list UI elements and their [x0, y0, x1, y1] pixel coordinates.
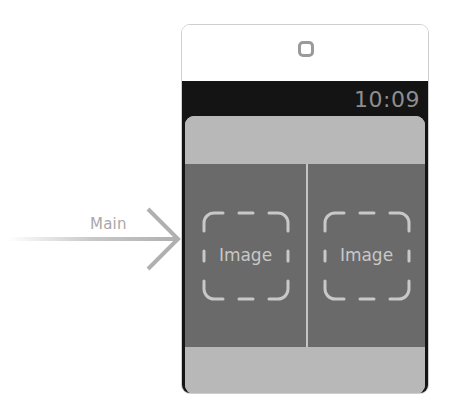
entry-point-label: Main [90, 215, 127, 233]
image-placeholder: Image [322, 211, 412, 301]
status-bar: 10:09 [182, 81, 428, 115]
image-row-group[interactable]: Image [185, 164, 425, 347]
watch-screen: 10:09 [182, 81, 428, 394]
image-placeholder-label: Image [322, 245, 412, 265]
group-bottom-area [185, 347, 425, 394]
image-placeholder-label: Image [201, 245, 291, 265]
storyboard-entry-point-arrow[interactable] [0, 195, 185, 275]
group-top-area [185, 116, 425, 164]
entry-arrow-icon [0, 195, 185, 275]
group-container[interactable]: Image [185, 116, 425, 394]
interface-controller-icon[interactable] [298, 41, 314, 57]
interface-controller-scene[interactable]: 10:09 [181, 24, 429, 394]
scene-header[interactable] [182, 25, 428, 81]
image-placeholder: Image [201, 211, 291, 301]
image-view-2[interactable]: Image [308, 164, 425, 347]
image-view-1[interactable]: Image [185, 164, 306, 347]
status-time: 10:09 [354, 87, 420, 112]
